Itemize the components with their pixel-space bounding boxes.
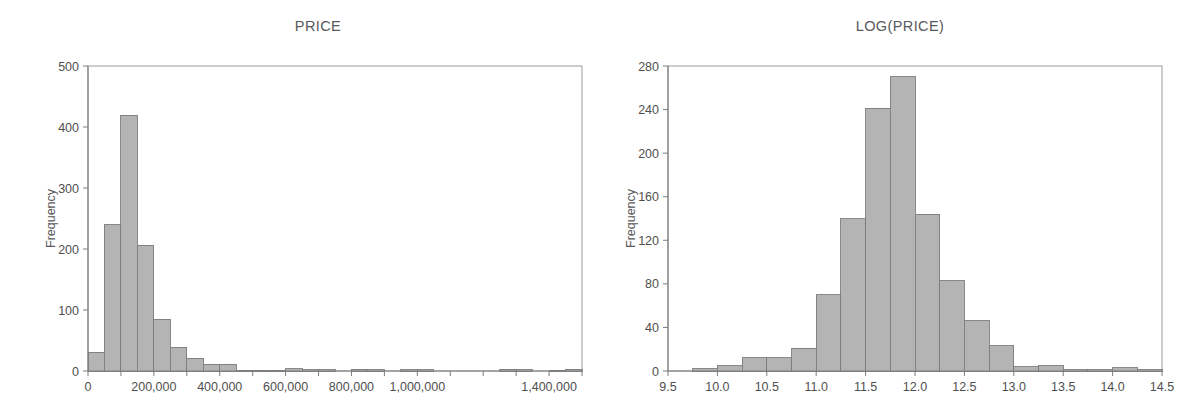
- chart-canvas-logprice: 040801201602002402809.510.010.511.011.51…: [600, 0, 1180, 410]
- histogram-bar: [890, 77, 915, 371]
- histogram-bar: [866, 108, 891, 371]
- x-axis-ticks: 0200,000400,000600,000800,0001,000,0001,…: [85, 371, 582, 394]
- chart-panel-logprice: LOG(PRICE) Frequency 0408012016020024028…: [600, 0, 1180, 410]
- histogram-bar: [88, 352, 104, 371]
- y-axis-ticks: 04080120160200240280: [638, 60, 668, 379]
- x-tick-label: 800,000: [329, 380, 374, 394]
- y-tick-label: 280: [638, 60, 659, 74]
- histogram-bar: [121, 115, 137, 371]
- histogram-bar: [1014, 367, 1039, 371]
- x-tick-label: 400,000: [197, 380, 242, 394]
- histogram-bar: [1039, 366, 1064, 371]
- histogram-bar: [915, 214, 940, 371]
- x-tick-label: 13.0: [1002, 380, 1026, 394]
- x-tick-label: 9.5: [659, 380, 676, 394]
- y-tick-label: 160: [638, 190, 659, 204]
- page-title: PRICE: [0, 18, 600, 34]
- y-tick-label: 500: [58, 60, 79, 74]
- x-tick-label: 10.0: [705, 380, 729, 394]
- histogram-bars: [88, 115, 582, 371]
- x-tick-label: 11.5: [854, 380, 877, 394]
- histogram-bar: [964, 321, 989, 371]
- histogram-bar: [767, 358, 792, 371]
- y-tick-label: 240: [638, 103, 659, 117]
- y-tick-label: 300: [58, 182, 79, 196]
- histogram-bar: [220, 364, 236, 371]
- x-axis-ticks: 9.510.010.511.011.512.012.513.013.514.01…: [659, 371, 1174, 394]
- x-tick-label: 1,400,000: [521, 380, 577, 394]
- histogram-bar: [170, 347, 186, 371]
- histogram-bar: [989, 346, 1014, 371]
- histogram-bar: [717, 366, 742, 371]
- x-tick-label: 12.5: [952, 380, 976, 394]
- y-tick-label: 400: [58, 121, 79, 135]
- x-tick-label: 14.5: [1150, 380, 1174, 394]
- chart-canvas-price: 01002003004005000200,000400,000600,00080…: [0, 0, 600, 410]
- y-tick-label: 0: [72, 365, 79, 379]
- x-tick-label: 11.0: [804, 380, 827, 394]
- x-tick-label: 12.0: [903, 380, 927, 394]
- x-tick-label: 10.5: [755, 380, 779, 394]
- histogram-bar: [203, 364, 219, 371]
- y-axis-label: Frequency: [44, 189, 58, 248]
- y-tick-label: 120: [638, 234, 659, 248]
- histogram-bar: [104, 225, 120, 371]
- y-tick-label: 80: [645, 277, 659, 291]
- x-tick-label: 0: [85, 380, 92, 394]
- histogram-bar: [137, 245, 153, 371]
- x-tick-label: 13.5: [1051, 380, 1075, 394]
- y-tick-label: 200: [638, 147, 659, 161]
- chart-panel-price: PRICE Frequency 01002003004005000200,000…: [0, 0, 600, 410]
- histogram-bar: [792, 348, 817, 371]
- x-tick-label: 1,000,000: [390, 380, 446, 394]
- histogram-bar: [940, 281, 965, 371]
- y-tick-label: 200: [58, 243, 79, 257]
- histogram-bar: [742, 358, 767, 371]
- x-tick-label: 200,000: [131, 380, 176, 394]
- x-tick-label: 600,000: [263, 380, 308, 394]
- y-tick-label: 100: [58, 304, 79, 318]
- page-title: LOG(PRICE): [600, 18, 1180, 34]
- y-axis-label: Frequency: [624, 189, 638, 248]
- histogram-bar: [187, 358, 203, 371]
- y-tick-label: 0: [652, 365, 659, 379]
- y-axis-ticks: 0100200300400500: [58, 60, 88, 379]
- histogram-bar: [841, 219, 866, 372]
- histogram-figure: PRICE Frequency 01002003004005000200,000…: [0, 0, 1180, 410]
- x-tick-label: 14.0: [1100, 380, 1124, 394]
- histogram-bar: [816, 295, 841, 371]
- histogram-bars: [693, 77, 1162, 371]
- histogram-bar: [154, 319, 170, 371]
- y-tick-label: 40: [645, 321, 659, 335]
